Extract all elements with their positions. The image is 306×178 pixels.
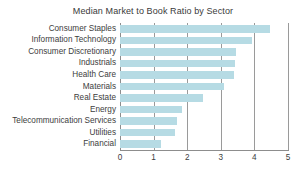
x-axis-tick-label: 2 <box>185 153 190 162</box>
y-axis-category-labels: Consumer StaplesInformation TechnologyCo… <box>0 23 116 150</box>
x-axis-tick-label: 0 <box>118 153 123 162</box>
bar-row <box>120 48 288 56</box>
y-axis-label: Consumer Staples <box>0 24 116 33</box>
bar-series <box>120 23 288 150</box>
bar-row <box>120 60 288 68</box>
y-axis-label: Real Estate <box>0 93 116 102</box>
chart-title: Median Market to Book Ratio by Sector <box>0 6 306 16</box>
x-axis-line <box>120 150 289 151</box>
y-axis-label: Financial <box>0 139 116 148</box>
bar <box>120 71 234 79</box>
bar <box>120 83 224 91</box>
bar <box>120 60 235 68</box>
bar <box>120 25 270 33</box>
bar <box>120 37 252 45</box>
bar-row <box>120 140 288 148</box>
x-axis-tick-label: 4 <box>252 153 257 162</box>
gridline-5 <box>288 23 289 150</box>
bar-row <box>120 106 288 114</box>
bar-row <box>120 94 288 102</box>
bar-row <box>120 37 288 45</box>
x-axis-tick-label: 3 <box>219 153 224 162</box>
y-axis-label: Energy <box>0 105 116 114</box>
y-axis-label: Consumer Discretionary <box>0 47 116 56</box>
bar <box>120 48 236 56</box>
y-axis-label: Information Technology <box>0 35 116 44</box>
y-axis-label: Telecommunication Services <box>0 116 116 125</box>
bar-row <box>120 129 288 137</box>
bar-row <box>120 25 288 33</box>
bar <box>120 106 182 114</box>
y-axis-label: Materials <box>0 82 116 91</box>
y-axis-label: Health Care <box>0 70 116 79</box>
plot-area <box>120 23 288 150</box>
bar <box>120 140 161 148</box>
x-axis-tick-label: 5 <box>286 153 291 162</box>
bar <box>120 94 203 102</box>
y-axis-label: Industrials <box>0 58 116 67</box>
market-to-book-ratio-bar-chart: Median Market to Book Ratio by Sector Co… <box>0 0 306 178</box>
bar-row <box>120 117 288 125</box>
y-axis-label: Utilities <box>0 128 116 137</box>
bar-row <box>120 83 288 91</box>
bar <box>120 117 177 125</box>
bar <box>120 129 175 137</box>
bar-row <box>120 71 288 79</box>
x-axis-tick-label: 1 <box>151 153 156 162</box>
x-axis-tick-labels: 012345 <box>0 153 306 167</box>
